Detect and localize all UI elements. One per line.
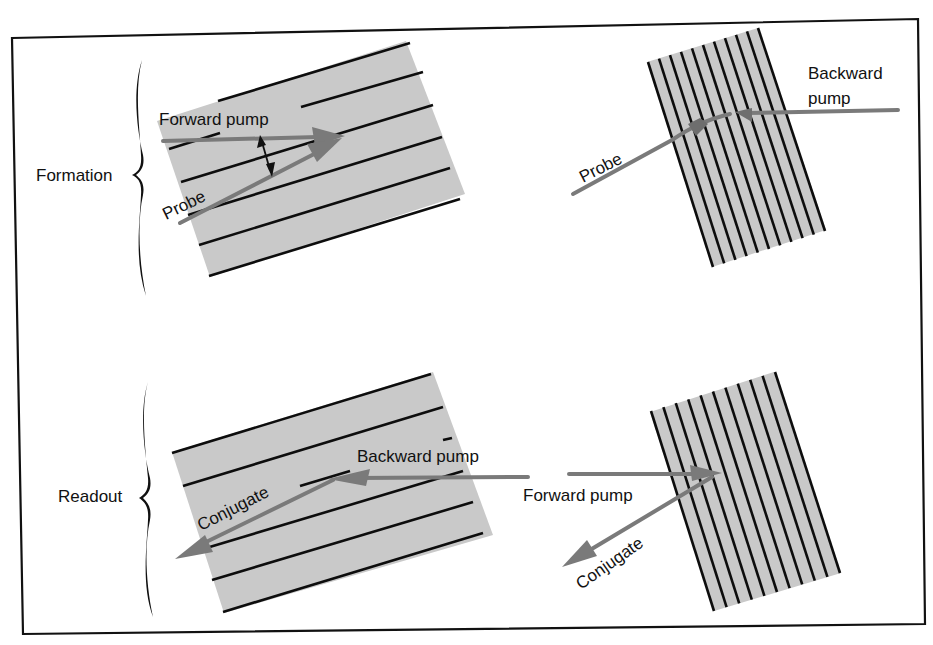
label-forward-pump-readout: Forward pump <box>523 486 633 505</box>
label-backward-pump-line2: pump <box>808 89 851 108</box>
row-label-readout: Readout <box>58 487 123 506</box>
label-backward-pump-line1: Backward <box>808 64 883 83</box>
label-backward-pump-readout: Backward pump <box>357 447 479 466</box>
row-label-formation: Formation <box>36 166 113 185</box>
phase-conjugation-diagram: Formation <box>0 0 933 645</box>
label-forward-pump-formation: Forward pump <box>159 110 269 129</box>
